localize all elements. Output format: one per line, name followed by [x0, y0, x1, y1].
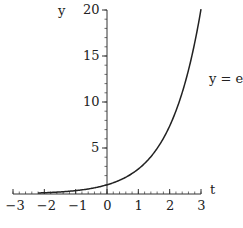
x-tick-label: 2	[166, 199, 174, 212]
function-label-base: y = e	[209, 71, 243, 86]
x-tick-label: −1	[68, 199, 87, 212]
y-tick-label: 5	[91, 141, 99, 154]
y-tick-label: 15	[83, 49, 100, 62]
x-tick-label: 1	[135, 199, 143, 212]
function-label: y = et	[209, 70, 243, 86]
x-tick-label: −3	[6, 199, 25, 212]
y-tick-label: 10	[83, 95, 100, 108]
y-axis-label: y	[58, 4, 65, 17]
exponential-curve	[38, 9, 201, 193]
y-tick-label: 20	[83, 3, 100, 16]
x-tick-label: 0	[103, 199, 111, 212]
x-tick-label: −2	[37, 199, 56, 212]
exponential-plot	[0, 0, 243, 228]
x-tick-label: 3	[197, 199, 205, 212]
x-axis-label: t	[210, 183, 215, 196]
